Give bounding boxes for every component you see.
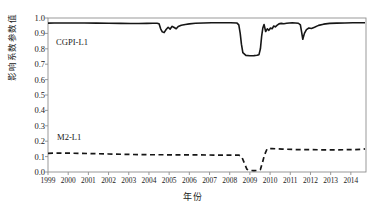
x-tick-label: 2003	[121, 177, 136, 185]
x-tick-label: 2009	[243, 177, 258, 185]
series-label-m2-l1: M2-L1	[57, 133, 81, 142]
series-label-cgpi-l1: CGPI-L1	[56, 38, 88, 47]
series-line-m2-l1	[48, 149, 365, 171]
x-tick-label: 2010	[263, 177, 278, 185]
x-tick-label: 2000	[61, 177, 76, 185]
x-tick-label: 2007	[202, 177, 217, 185]
x-tick-label: 2001	[81, 177, 96, 185]
chart-container: 影响系数参数值 1.00.90.80.70.60.50.40.30.20.10.…	[0, 0, 385, 210]
x-tick-label: 2006	[182, 177, 197, 185]
x-axis-ticks: 1999200020012002200320042005200620072008…	[0, 177, 385, 189]
x-tick-label: 2012	[303, 177, 318, 185]
x-tick-label: 2014	[343, 177, 358, 185]
x-tick-label: 2011	[283, 177, 298, 185]
x-tick-label: 2002	[101, 177, 116, 185]
series-line-cgpi-l1	[48, 23, 365, 56]
x-tick-label: 2008	[222, 177, 237, 185]
x-tick-label: 2004	[142, 177, 157, 185]
plot-frame	[48, 18, 366, 172]
x-tick-label: 1999	[41, 177, 56, 185]
x-tick-label: 2005	[162, 177, 177, 185]
x-axis-label: 年份	[0, 190, 385, 203]
x-tick-label: 2013	[323, 177, 338, 185]
